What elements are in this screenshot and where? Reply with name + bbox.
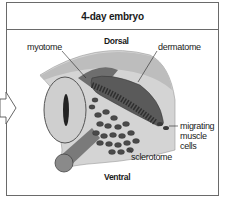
label-cells: cells [180, 141, 197, 151]
notochord [55, 154, 73, 172]
label-migrating: migrating [180, 121, 214, 131]
label-dorsal: Dorsal [104, 36, 129, 46]
label-dermatome: dermatome [158, 42, 201, 52]
label-myotome: myotome [27, 42, 62, 52]
label-sclerotome: sclerotome [131, 152, 172, 162]
label-ventral: Ventral [104, 172, 130, 182]
neural-canal [63, 94, 69, 126]
label-muscle: muscle [180, 131, 207, 141]
hollow-right-arrow-icon [0, 90, 20, 126]
